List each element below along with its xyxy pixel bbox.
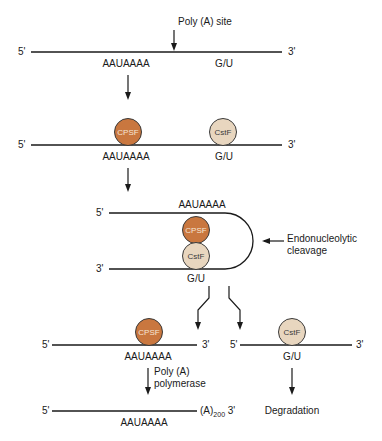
aauaaaa-signal-label: AAUAAAA xyxy=(124,351,171,363)
poly-a-tail-label: (A)200 3' xyxy=(200,405,235,421)
three-prime-label: 3' xyxy=(288,139,295,151)
gu-element-label: G/U xyxy=(215,58,233,70)
cleavage-label-line1: Endonucleolytic xyxy=(287,233,357,245)
five-prime-label: 5' xyxy=(96,207,103,219)
three-prime-label: 3' xyxy=(288,46,295,58)
three-prime-label: 3' xyxy=(356,339,363,351)
five-prime-label: 5' xyxy=(18,46,25,58)
poly-a-polymerase-label-line1: Poly (A) xyxy=(154,366,190,378)
cleavage-label-line2: cleavage xyxy=(287,245,327,257)
five-prime-label: 5' xyxy=(42,405,49,417)
degradation-label: Degradation xyxy=(265,405,319,417)
five-prime-label: 5' xyxy=(18,139,25,151)
aauaaaa-signal-label: AAUAAAA xyxy=(102,151,149,163)
gu-element-label: G/U xyxy=(283,351,301,363)
gu-element-label: G/U xyxy=(187,273,205,285)
three-prime-label: 3' xyxy=(96,263,103,275)
five-prime-label: 5' xyxy=(42,339,49,351)
cpsf-protein: CPSF xyxy=(182,216,210,244)
three-prime-label: 3' xyxy=(202,339,209,351)
aauaaaa-signal-label: AAUAAAA xyxy=(102,58,149,70)
poly-a-polymerase-label-line2: polymerase xyxy=(154,378,206,390)
aauaaaa-signal-label: AAUAAAA xyxy=(120,417,167,429)
cpsf-protein: CPSF xyxy=(135,318,163,346)
gu-element-label: G/U xyxy=(215,151,233,163)
cstf-protein: CstF xyxy=(278,318,306,346)
cpsf-protein: CPSF xyxy=(114,118,142,146)
five-prime-label: 5' xyxy=(230,339,237,351)
aauaaaa-signal-label: AAUAAAA xyxy=(178,199,225,211)
cstf-protein: CstF xyxy=(182,242,210,270)
poly-a-site-label: Poly (A) site xyxy=(178,16,232,28)
cstf-protein: CstF xyxy=(209,118,237,146)
